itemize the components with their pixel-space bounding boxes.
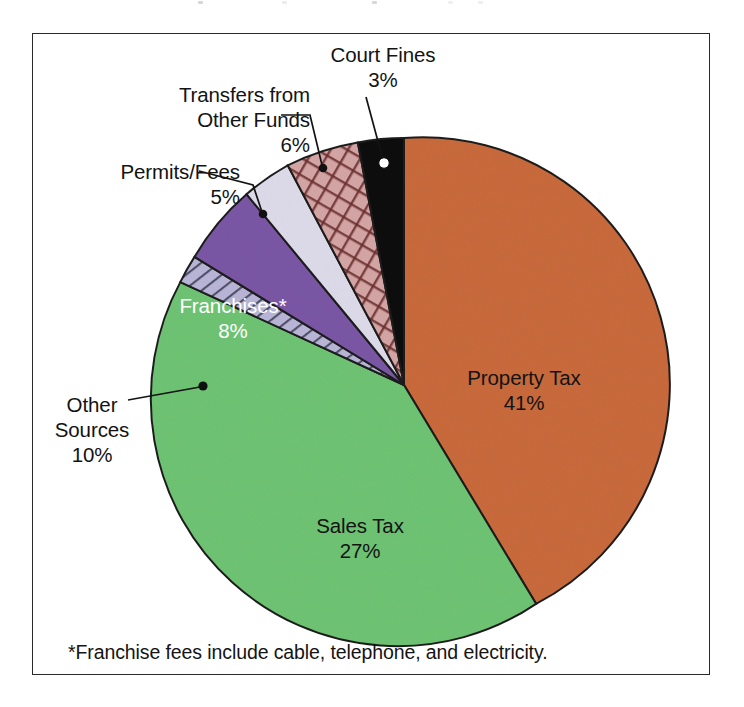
slice-label-transfers-line1: Transfers from xyxy=(179,83,310,106)
slice-label-transfers-line2: Other Funds xyxy=(197,108,310,131)
slice-label-court-fines: Court Fines3% xyxy=(288,42,478,92)
chart-footnote: *Franchise fees include cable, telephone… xyxy=(68,641,547,664)
slice-label-other-sources-line1: Other xyxy=(67,393,118,416)
scan-speck xyxy=(448,1,453,4)
slice-label-sales-tax-line2: 27% xyxy=(340,539,381,562)
slice-label-property-tax: Property Tax41% xyxy=(432,365,616,415)
slice-label-permits-fees: Permits/Fees5% xyxy=(44,159,240,209)
scan-speck xyxy=(478,1,483,4)
slice-label-transfers-line3: 6% xyxy=(281,133,310,156)
scan-speck xyxy=(198,1,203,4)
slice-label-sales-tax: Sales Tax27% xyxy=(278,513,442,563)
slice-label-other-sources: OtherSources10% xyxy=(26,392,158,467)
slice-label-court-fines-line1: Court Fines xyxy=(331,43,436,66)
scan-artifact-strip xyxy=(0,0,744,7)
slice-label-sales-tax-line1: Sales Tax xyxy=(316,514,404,537)
slice-label-permits-line2: 5% xyxy=(211,185,240,208)
slice-label-property-tax-line2: 41% xyxy=(504,391,545,414)
scan-speck xyxy=(372,1,377,4)
slice-label-other-sources-line3: 10% xyxy=(72,443,113,466)
slice-label-property-tax-line1: Property Tax xyxy=(467,366,581,389)
slice-label-court-fines-line2: 3% xyxy=(368,68,397,91)
slice-label-transfers-other-funds: Transfers fromOther Funds6% xyxy=(104,82,310,157)
slice-label-franchises: Franchises*8% xyxy=(158,293,308,343)
slice-label-franchises-line1: Franchises* xyxy=(179,294,286,317)
slice-label-permits-line1: Permits/Fees xyxy=(120,160,240,183)
scan-speck xyxy=(282,1,287,4)
slice-label-other-sources-line2: Sources xyxy=(55,418,130,441)
slice-label-franchises-line2: 8% xyxy=(218,319,247,342)
